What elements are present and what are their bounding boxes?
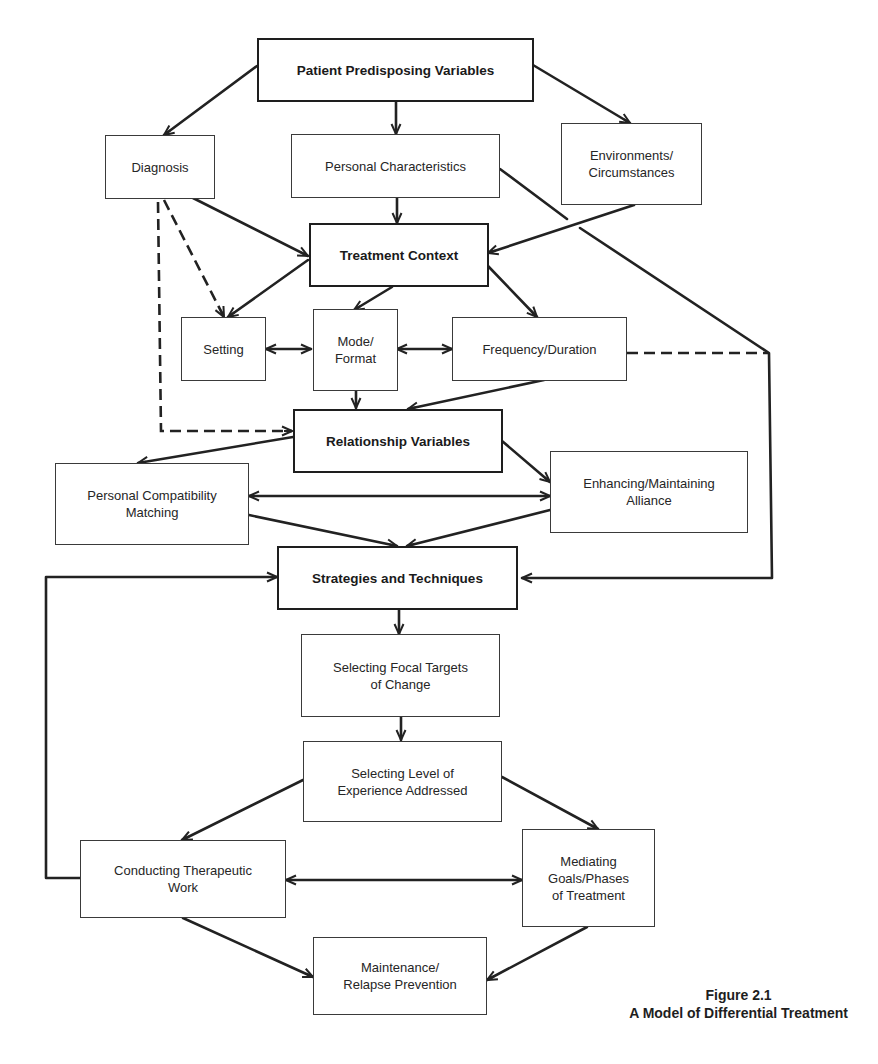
node-label: Enhancing/Maintaining Alliance — [583, 475, 715, 509]
figure-title: A Model of Differential Treatment — [629, 1004, 848, 1022]
edge-patient-to-diagnosis — [164, 66, 257, 135]
edge-treatment-context-to-setting — [228, 260, 308, 317]
edge-level-to-mediating-goals — [502, 777, 598, 829]
edge-frequency-duration-to-relationship — [408, 380, 544, 409]
edge-mediating-to-maintenance — [487, 927, 587, 980]
figure-number: Figure 2.1 — [629, 986, 848, 1004]
node-strategies-and-techniques: Strategies and Techniques — [277, 546, 518, 610]
edge-treatment-context-to-frequency-duration — [488, 266, 537, 317]
node-label: Selecting Level of Experience Addressed — [337, 765, 467, 799]
node-label: Strategies and Techniques — [312, 570, 483, 587]
node-diagnosis: Diagnosis — [105, 135, 215, 199]
figure-caption: Figure 2.1 A Model of Differential Treat… — [629, 986, 848, 1022]
node-patient-predisposing-variables: Patient Predisposing Variables — [257, 38, 534, 102]
node-selecting-level-experience: Selecting Level of Experience Addressed — [303, 741, 502, 822]
node-label: Treatment Context — [340, 247, 459, 264]
node-mediating-goals-phases: Mediating Goals/Phases of Treatment — [522, 829, 655, 927]
node-label: Patient Predisposing Variables — [297, 62, 494, 79]
node-label: Diagnosis — [131, 159, 188, 176]
node-label: Conducting Therapeutic Work — [114, 862, 252, 896]
node-enhancing-maintaining-alliance: Enhancing/Maintaining Alliance — [550, 451, 748, 533]
edge-relationship-to-compatibility — [138, 437, 293, 463]
node-label: Mediating Goals/Phases of Treatment — [548, 853, 629, 904]
edge-feedback-conducting-to-strategies — [46, 577, 277, 878]
edge-diagnosis-to-treatment-context — [193, 198, 308, 256]
node-selecting-focal-targets: Selecting Focal Targets of Change — [301, 634, 500, 717]
node-personal-compatibility-matching: Personal Compatibility Matching — [55, 463, 249, 545]
edge-diagnosis-to-setting-dashed — [164, 200, 224, 317]
node-personal-characteristics: Personal Characteristics — [291, 134, 500, 198]
edge-relationship-to-alliance — [502, 441, 550, 482]
node-setting: Setting — [181, 317, 266, 381]
node-label: Personal Compatibility Matching — [87, 487, 216, 521]
node-label: Setting — [203, 341, 243, 358]
node-mode-format: Mode/ Format — [313, 309, 398, 391]
node-label: Selecting Focal Targets of Change — [333, 659, 468, 693]
edge-alliance-to-strategies — [407, 510, 550, 546]
node-label: Mode/ Format — [335, 333, 376, 367]
node-label: Relationship Variables — [326, 433, 470, 450]
edge-patient-to-environments — [533, 65, 630, 123]
node-treatment-context: Treatment Context — [309, 223, 489, 287]
node-frequency-duration: Frequency/Duration — [452, 317, 627, 381]
node-conducting-therapeutic-work: Conducting Therapeutic Work — [80, 840, 286, 918]
node-label: Environments/ Circumstances — [589, 147, 675, 181]
node-relationship-variables: Relationship Variables — [293, 409, 503, 473]
node-label: Personal Characteristics — [325, 158, 466, 175]
node-label: Frequency/Duration — [482, 341, 596, 358]
edge-treatment-context-to-mode-format — [354, 287, 392, 310]
edge-personal-characteristics-to-strategies — [500, 169, 567, 219]
node-label: Maintenance/ Relapse Prevention — [343, 959, 456, 993]
edge-level-to-conducting-work — [182, 780, 303, 840]
node-maintenance-relapse-prevention: Maintenance/ Relapse Prevention — [313, 937, 487, 1015]
node-environments-circumstances: Environments/ Circumstances — [561, 123, 702, 205]
edge-compatibility-to-strategies — [249, 515, 397, 546]
edge-environments-to-treatment-context — [488, 205, 634, 253]
edge-conducting-to-maintenance — [183, 918, 313, 977]
